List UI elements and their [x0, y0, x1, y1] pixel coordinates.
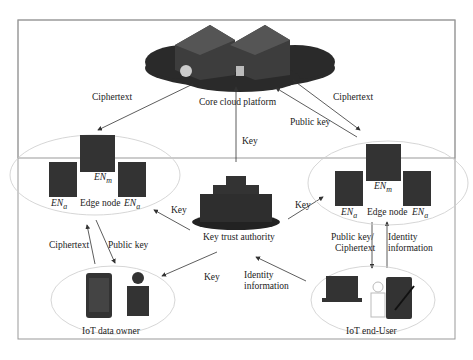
- edge-label-identity-right-2: information: [388, 243, 433, 254]
- right-en-a1: ENa: [341, 207, 357, 221]
- left-edge-node-label: Edge node: [80, 198, 120, 209]
- edge-label-public-key-cloud: Public key: [290, 117, 330, 128]
- person-icon: [127, 272, 149, 316]
- right-edge-node-label: Edge node: [367, 207, 407, 218]
- laptop-icon: [322, 276, 362, 302]
- edge-label-public-key-owner: Public key: [108, 240, 148, 251]
- cloud-icon: [145, 25, 335, 92]
- edge-label-pubkey-cipher-2: Ciphertext: [335, 243, 375, 254]
- edge-label-ciphertext-right: Ciphertext: [333, 92, 373, 103]
- left-en-a1: ENa: [51, 198, 67, 212]
- edge-label-identity-right-1: Identity: [388, 232, 418, 243]
- edge-label-key-left: Key: [171, 205, 187, 216]
- smartphone-icon: [86, 273, 112, 318]
- user-outline-icon: [371, 282, 385, 317]
- key-trust-authority-icon: [192, 176, 280, 230]
- edge-right-servers-icon: [335, 144, 431, 206]
- edge-label-identity-kta-1: Identity: [244, 270, 274, 281]
- edge-label-identity-kta-2: information: [244, 281, 289, 292]
- owner-label: IoT data owner: [82, 326, 140, 337]
- edge-left-servers-icon: [49, 135, 146, 197]
- edge-label-pubkey-cipher-1: Public key/: [331, 232, 374, 243]
- left-en-m: ENm: [94, 172, 112, 186]
- edge-label-key-right: Key: [295, 200, 311, 211]
- tablet-pen-icon: [386, 277, 414, 319]
- diagram-canvas: [0, 0, 473, 360]
- edge-label-key-owner: Key: [204, 272, 220, 283]
- edge-label-ciphertext-owner: Ciphertext: [49, 240, 89, 251]
- right-en-a2: ENa: [412, 207, 428, 221]
- left-en-a2: ENa: [124, 198, 140, 212]
- right-en-m: ENm: [374, 181, 392, 195]
- edge-label-ciphertext-left: Ciphertext: [92, 92, 132, 103]
- edge-label-key-cloud: Key: [242, 136, 258, 147]
- owner-ellipse: [51, 266, 175, 334]
- cloud-label: Core cloud platform: [199, 97, 276, 108]
- kta-label: Key trust authority: [203, 232, 275, 243]
- enduser-label: IoT end-User: [346, 326, 397, 337]
